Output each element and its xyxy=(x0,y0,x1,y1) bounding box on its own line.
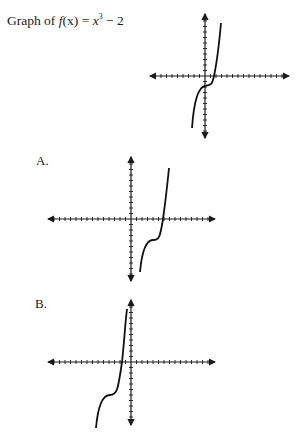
graphs-canvas xyxy=(0,0,304,444)
option-b-graph xyxy=(48,300,215,428)
option-a-graph xyxy=(48,157,215,281)
main-graph xyxy=(150,14,289,138)
